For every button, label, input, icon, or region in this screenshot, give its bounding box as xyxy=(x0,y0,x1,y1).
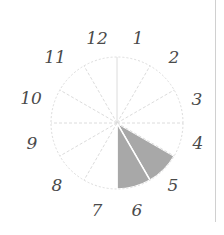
clock-diagram: 12 1 2 3 4 5 6 7 8 9 10 11 xyxy=(0,0,224,235)
hour-label-9: 9 xyxy=(27,135,38,152)
hour-label-6: 6 xyxy=(132,202,143,219)
divider-line xyxy=(215,0,216,222)
radial-line xyxy=(117,90,174,123)
radial-line xyxy=(84,123,117,180)
hour-label-11: 11 xyxy=(44,49,66,66)
hour-label-5: 5 xyxy=(168,177,179,194)
hour-label-2: 2 xyxy=(169,49,180,66)
hour-label-8: 8 xyxy=(52,177,63,194)
radial-line xyxy=(60,123,117,156)
hour-label-7: 7 xyxy=(92,202,103,219)
hour-label-1: 1 xyxy=(133,30,144,47)
hour-label-3: 3 xyxy=(192,91,203,108)
clock-face xyxy=(0,0,224,235)
radial-line xyxy=(60,90,117,123)
shaded-wedges xyxy=(117,123,174,189)
hour-label-10: 10 xyxy=(20,90,42,107)
hour-label-4: 4 xyxy=(193,135,204,152)
radial-line xyxy=(84,66,117,123)
hour-label-12: 12 xyxy=(86,30,108,47)
radial-line xyxy=(117,66,150,123)
